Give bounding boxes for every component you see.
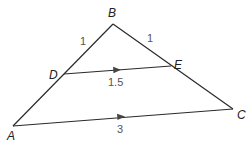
vertex-label-B: B bbox=[108, 6, 116, 20]
vertex-label-C: C bbox=[237, 108, 246, 122]
length-label-DE: 1.5 bbox=[108, 76, 123, 88]
side-BC bbox=[113, 24, 233, 109]
side-AB bbox=[13, 24, 113, 126]
triangle-diagram: A B C D E 1 1 1.5 3 bbox=[0, 0, 247, 152]
length-label-AC: 3 bbox=[117, 123, 123, 135]
length-label-BD: 1 bbox=[80, 35, 86, 47]
length-label-BE: 1 bbox=[147, 32, 153, 44]
parallel-arrow-icon-AC bbox=[117, 114, 125, 120]
parallel-arrow-icon-DE bbox=[113, 67, 121, 73]
vertex-label-E: E bbox=[174, 58, 183, 72]
vertex-label-D: D bbox=[49, 68, 58, 82]
vertex-label-A: A bbox=[6, 129, 15, 143]
